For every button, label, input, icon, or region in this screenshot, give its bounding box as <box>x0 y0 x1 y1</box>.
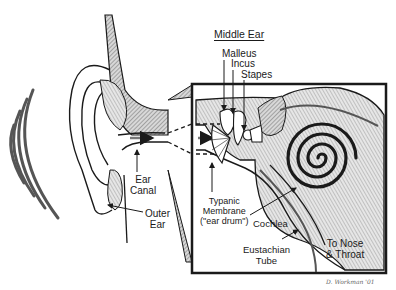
nose-throat-label: To Nose & Throat <box>326 238 364 260</box>
zoom-wedge-bottom <box>168 170 192 262</box>
zoom-wedge-top <box>168 85 192 100</box>
incus-label: Incus <box>231 58 255 69</box>
cochlea-label: Cochlea <box>253 218 288 229</box>
typanic-membrane-label: Typanic Membrane ("ear drum") <box>200 196 248 226</box>
artist-signature: D. Workman '01 <box>326 276 375 287</box>
earlobe <box>108 170 123 210</box>
sound-waves <box>11 90 58 218</box>
ear-canal-label: Ear Canal <box>130 174 156 196</box>
outer-ear-label: Outer Ear <box>145 208 170 230</box>
stapes-label: Stapes <box>241 69 272 80</box>
middle-ear-title: Middle Ear <box>214 29 264 40</box>
eustachian-tube-label: Eustachian Tube <box>243 244 290 266</box>
